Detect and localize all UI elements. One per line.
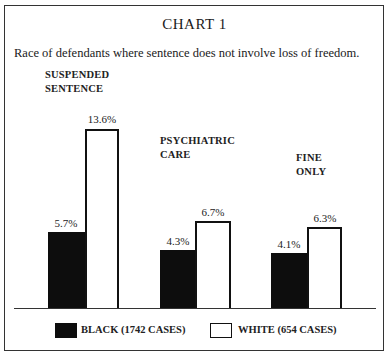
value-label-black-suspended: 5.7%	[46, 217, 86, 229]
bar-black-psychiatric-care	[160, 250, 195, 308]
bar-black-suspended-sentence	[48, 232, 85, 308]
category-label-psychiatric-care: PSYCHIATRIC CARE	[160, 134, 235, 162]
legend-label-black: BLACK (1742 CASES)	[81, 324, 185, 335]
legend-swatch-white	[210, 323, 232, 338]
value-label-white-psychiatric: 6.7%	[193, 206, 233, 218]
bar-white-fine-only	[307, 227, 342, 308]
value-label-black-fine: 4.1%	[269, 238, 309, 250]
category-label-suspended-sentence: SUSPENDED SENTENCE	[45, 68, 109, 96]
value-label-white-suspended: 13.6%	[82, 113, 122, 125]
legend-swatch-black	[55, 323, 77, 338]
bar-white-psychiatric-care	[195, 221, 231, 308]
value-label-black-psychiatric: 4.3%	[158, 235, 198, 247]
category-label-fine-only: FINE ONLY	[296, 151, 326, 179]
bar-black-fine-only	[271, 253, 307, 308]
value-label-white-fine: 6.3%	[305, 212, 345, 224]
legend-label-white: WHITE (654 CASES)	[238, 324, 337, 335]
bar-white-suspended-sentence	[85, 129, 119, 308]
chart-subtitle: Race of defendants where sentence does n…	[14, 46, 359, 61]
x-axis-baseline	[14, 308, 376, 309]
chart-title: CHART 1	[0, 16, 389, 33]
